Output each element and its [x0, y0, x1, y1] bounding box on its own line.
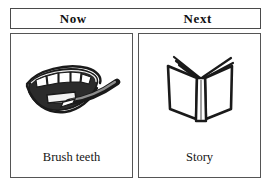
- now-next-board: Now Next: [10, 8, 261, 178]
- mouth-with-teeth-and-toothbrush-icon: [17, 50, 127, 130]
- card-next-caption: Story: [139, 151, 260, 164]
- card-now-caption: Brush teeth: [11, 151, 132, 164]
- header-label-next: Next: [184, 12, 212, 25]
- header-cell-now: Now: [11, 9, 136, 28]
- card-now-artwork: [11, 38, 132, 142]
- board-header: Now Next: [10, 8, 261, 29]
- card-now[interactable]: Brush teeth: [10, 33, 133, 178]
- card-next[interactable]: Story: [138, 33, 261, 178]
- header-label-now: Now: [60, 12, 87, 25]
- header-cell-next: Next: [136, 9, 261, 28]
- open-book-icon: [154, 47, 246, 133]
- card-next-artwork: [139, 38, 260, 142]
